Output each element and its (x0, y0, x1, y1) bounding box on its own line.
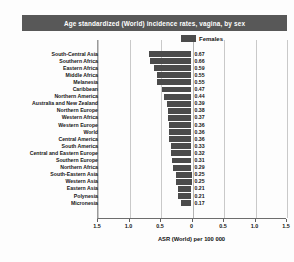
bar-row: Southern Africa0.66 (0, 58, 294, 65)
bar (172, 158, 192, 164)
bar-row: World0.36 (0, 129, 294, 136)
bar-value-label: 0.39 (195, 100, 205, 107)
legend-swatch (181, 35, 196, 42)
bar-value-label: 0.59 (195, 65, 205, 72)
category-label: Southern Europe (56, 157, 98, 164)
bar (168, 115, 191, 121)
category-label: Northern Europe (57, 107, 98, 114)
bar-row: South-Eastern Asia0.25 (0, 171, 294, 178)
bar (181, 200, 192, 206)
bar (178, 186, 191, 192)
bar-value-label: 0.36 (195, 129, 205, 136)
bar-value-label: 0.25 (195, 171, 205, 178)
category-label: Caribbean (73, 86, 98, 93)
chart-legend: Females (181, 35, 223, 42)
bar-row: Northern Europe0.38 (0, 107, 294, 114)
category-label: Middle Africa (66, 72, 98, 79)
bar-row: Central and Eastern Europe0.32 (0, 150, 294, 157)
bar (169, 122, 192, 128)
bar-value-label: 0.47 (195, 86, 205, 93)
category-label: Micronesia (71, 200, 98, 207)
category-label: Eastern Asia (67, 185, 98, 192)
bar-value-label: 0.31 (195, 157, 205, 164)
bar (178, 193, 191, 199)
bar-row: Central America0.36 (0, 136, 294, 143)
bar (149, 51, 191, 57)
category-label: Central and Eastern Europe (30, 150, 98, 157)
bar-row: Micronesia0.17 (0, 200, 294, 207)
bar-value-label: 0.38 (195, 107, 205, 114)
bar (176, 172, 192, 178)
bar (164, 94, 192, 100)
bar-row: Eastern Asia0.21 (0, 185, 294, 192)
x-axis-tick-label: 1.5 (282, 223, 290, 229)
bar-row: Southern Europe0.31 (0, 157, 294, 164)
bar (171, 150, 191, 156)
bar (167, 101, 192, 107)
bar-value-label: 0.32 (195, 150, 205, 157)
category-label: South America (62, 143, 98, 150)
bar (169, 136, 192, 142)
bar-value-label: 0.29 (195, 164, 205, 171)
bar-row: Eastern Africa0.59 (0, 65, 294, 72)
bar-value-label: 0.36 (195, 122, 205, 129)
bar-row: Northern Africa0.29 (0, 164, 294, 171)
bar-row: Polynesia0.21 (0, 193, 294, 200)
bar-value-label: 0.25 (195, 178, 205, 185)
bar-row: Middle Africa0.55 (0, 72, 294, 79)
category-label: Central America (58, 136, 98, 143)
chart-container: Age standardized (World) incidence rates… (0, 0, 294, 262)
chart-title: Age standardized (World) incidence rates… (64, 19, 245, 26)
x-axis-tick-label: 1.5 (93, 223, 101, 229)
category-label: Western Asia (65, 178, 98, 185)
bar-row: Western Europe0.36 (0, 122, 294, 129)
bar-row: Northern America0.44 (0, 93, 294, 100)
category-label: Australia and New Zealand (32, 100, 98, 107)
bar (157, 79, 192, 85)
x-axis-title: ASR (World) per 100 000 (97, 236, 286, 242)
bar-row: South-Central Asia0.67 (0, 51, 294, 58)
bar-row: Australia and New Zealand0.39 (0, 100, 294, 107)
legend-label: Females (199, 36, 223, 42)
category-label: Western Europe (58, 122, 98, 129)
category-label: World (83, 129, 98, 136)
bar-value-label: 0.17 (195, 200, 205, 207)
category-label: South-Eastern Asia (50, 171, 98, 178)
category-label: Eastern Africa (63, 65, 98, 72)
bar-row: Melanesia0.55 (0, 79, 294, 86)
bar-value-label: 0.21 (195, 185, 205, 192)
category-label: South-Central Asia (52, 51, 99, 58)
bar-value-label: 0.33 (195, 143, 205, 150)
bar-row: South America0.33 (0, 143, 294, 150)
bar-value-label: 0.55 (195, 79, 205, 86)
bar-value-label: 0.36 (195, 136, 205, 143)
bar-value-label: 0.67 (195, 51, 205, 58)
bar-row: Western Asia0.25 (0, 178, 294, 185)
category-label: Melanesia (73, 79, 98, 86)
x-axis-tick-label: 0.5 (219, 223, 227, 229)
bar (154, 65, 191, 71)
bar-value-label: 0.44 (195, 93, 205, 100)
bar-value-label: 0.66 (195, 58, 205, 65)
category-label: Northern America (54, 93, 98, 100)
x-axis-tick-label: 1.0 (251, 223, 259, 229)
category-label: Southern Africa (59, 58, 98, 65)
category-label: Northern Africa (60, 164, 98, 171)
x-axis-tick-label: 0.5 (156, 223, 164, 229)
bar (169, 129, 192, 135)
x-axis: 1.51.00.500.51.01.5 (97, 219, 286, 231)
bar-value-label: 0.55 (195, 72, 205, 79)
bar (157, 72, 192, 78)
bar (171, 143, 192, 149)
chart-title-banner: Age standardized (World) incidence rates… (22, 15, 287, 31)
bar (173, 165, 191, 171)
bar-row: Caribbean0.47 (0, 86, 294, 93)
x-axis-tick-label: 1.0 (125, 223, 133, 229)
bar (150, 58, 192, 64)
bar-value-label: 0.37 (195, 114, 205, 121)
x-axis-tick-label: 0 (190, 223, 193, 229)
bar-rows: South-Central Asia0.67Southern Africa0.6… (0, 40, 294, 219)
bar (162, 87, 192, 93)
category-label: Western Africa (62, 114, 98, 121)
bar (168, 108, 192, 114)
